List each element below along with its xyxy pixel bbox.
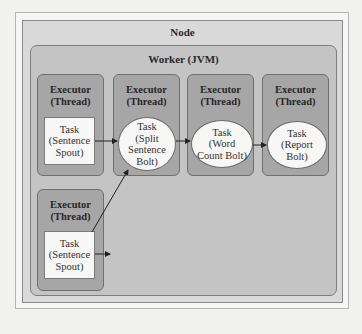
task-sentence-spout-1: Task (Sentence Spout): [44, 117, 95, 165]
executor-title: Executor (Thread): [114, 84, 179, 108]
executor-title: Executor (Thread): [263, 84, 328, 108]
task-label: Task (Sentence Spout): [49, 238, 90, 273]
task-label: Task (Report Bolt): [281, 128, 313, 163]
task-word-count-bolt: Task (Word Count Bolt): [191, 120, 253, 168]
node-title: Node: [23, 26, 342, 38]
executor-title: Executor (Thread): [38, 199, 103, 223]
task-label: Task (Word Count Bolt): [197, 127, 247, 162]
task-label: Task (Split Sentence Bolt): [128, 121, 166, 167]
task-split-sentence-bolt: Task (Split Sentence Bolt): [118, 117, 176, 171]
worker-title: Worker (JVM): [31, 53, 336, 65]
executor-title: Executor (Thread): [188, 84, 253, 108]
task-sentence-spout-2: Task (Sentence Spout): [44, 231, 95, 279]
task-label: Task (Sentence Spout): [49, 124, 90, 159]
task-report-bolt: Task (Report Bolt): [267, 121, 327, 169]
executor-title: Executor (Thread): [38, 84, 103, 108]
